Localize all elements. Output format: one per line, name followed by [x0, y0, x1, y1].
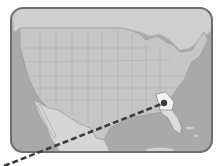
map-figure	[0, 0, 218, 166]
location-marker	[161, 100, 167, 106]
us-map	[0, 0, 218, 166]
